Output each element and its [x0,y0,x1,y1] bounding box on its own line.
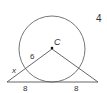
radius-label: 6 [30,52,35,61]
problem-number: 4 [96,13,102,24]
secant-external-label: x [11,66,17,75]
circle-tangent-diagram: C 6 x 8 8 4 [0,0,107,93]
center-point [51,47,54,50]
base-left-label: 8 [23,84,28,93]
base-right-label: 8 [74,84,79,93]
center-label: C [54,37,61,47]
right-side-line [52,49,98,82]
